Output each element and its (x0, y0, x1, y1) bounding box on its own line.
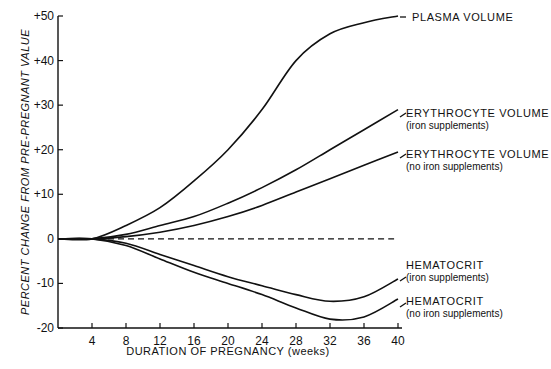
label-erythrocyte-iron: ERYTHROCYTE VOLUME (406, 107, 549, 119)
y-tick-label: 0 (47, 232, 54, 246)
label-erythrocyte-no-iron: ERYTHROCYTE VOLUME (406, 148, 549, 160)
y-tick-label: +10 (34, 187, 55, 201)
y-tick-label: -10 (37, 276, 55, 290)
chart: PERCENT CHANGE FROM PRE-PREGNANT VALUE -… (0, 0, 551, 369)
label-hematocrit-iron: HEMATOCRIT (406, 259, 484, 271)
y-tick-label: +50 (34, 9, 55, 23)
y-axis-title: PERCENT CHANGE FROM PRE-PREGNANT VALUE (19, 29, 31, 315)
label-erythrocyte-no-iron-sub: (no iron supplements) (406, 161, 503, 172)
line-hematocrit-no-iron (58, 238, 398, 320)
label-hematocrit-no-iron-sub: (no iron supplements) (406, 308, 503, 319)
line-plasma-volume (58, 16, 398, 240)
y-tick-label: +20 (34, 143, 55, 157)
label-erythrocyte-iron-sub: (iron supplements) (406, 120, 489, 131)
label-hematocrit-iron-sub: (iron supplements) (406, 272, 489, 283)
line-hematocrit-iron (58, 239, 398, 302)
line-erythrocyte-iron (58, 110, 398, 240)
axes (58, 16, 402, 328)
x-axis-title: DURATION OF PREGNANCY (weeks) (126, 345, 330, 357)
line-erythrocyte-no-iron (58, 152, 398, 239)
x-tick-label: 4 (89, 334, 96, 348)
label-hematocrit-no-iron: HEMATOCRIT (406, 295, 484, 307)
x-tick-label: 36 (357, 334, 371, 348)
y-tick-label: -20 (37, 321, 55, 335)
y-tick-label: +40 (34, 54, 55, 68)
line-labels: PLASMA VOLUME ERYTHROCYTE VOLUME (iron s… (400, 11, 549, 319)
plot-lines (58, 16, 398, 320)
y-tick-label: +30 (34, 98, 55, 112)
x-tick-label: 40 (391, 334, 405, 348)
label-plasma-volume: PLASMA VOLUME (412, 11, 513, 23)
y-axis-title-group: PERCENT CHANGE FROM PRE-PREGNANT VALUE (19, 29, 31, 315)
